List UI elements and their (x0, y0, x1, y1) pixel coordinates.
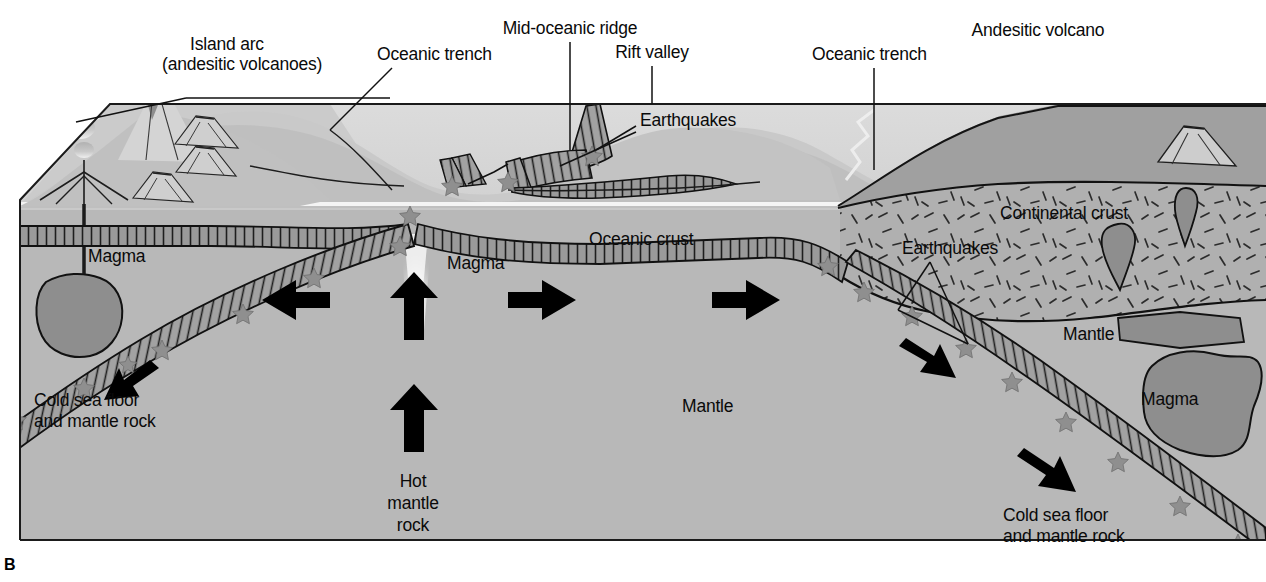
tectonics-cross-section-diagram (0, 0, 1266, 582)
label-cold-seafloor-left-2: and mantle rock (34, 411, 156, 431)
label-cold-seafloor-right-2: and mantle rock (1003, 526, 1125, 546)
label-continental-crust: Continental crust (1000, 203, 1128, 223)
label-island-arc: Island arc (190, 34, 264, 54)
label-mantle-center: Mantle (682, 396, 733, 416)
label-cold-seafloor-left-1: Cold sea floor (34, 390, 139, 410)
label-hot-mantle-3: rock (397, 515, 429, 535)
label-oceanic-crust: Oceanic crust (589, 229, 693, 249)
label-cold-seafloor-right-1: Cold sea floor (1003, 505, 1108, 525)
label-earthquakes-ridge: Earthquakes (640, 110, 736, 130)
label-oceanic-trench-left: Oceanic trench (377, 44, 492, 64)
label-oceanic-trench-right: Oceanic trench (812, 44, 927, 64)
magma-left-chamber (36, 274, 122, 357)
label-mid-oceanic-ridge: Mid-oceanic ridge (503, 18, 638, 38)
label-hot-mantle-2: mantle (387, 493, 438, 513)
label-magma-left: Magma (88, 246, 145, 266)
label-island-arc-subtitle: (andesitic volcanoes) (162, 54, 322, 74)
label-andesitic-volcano: Andesitic volcano (972, 20, 1105, 40)
label-mantle-right: Mantle (1063, 324, 1114, 344)
panel-letter: B (4, 556, 16, 574)
figure-panel: Island arc (andesitic volcanoes) Oceanic… (0, 0, 1266, 582)
label-magma-right: Magma (1141, 389, 1198, 409)
label-rift-valley: Rift valley (615, 42, 689, 62)
label-hot-mantle-1: Hot (400, 471, 427, 491)
label-earthquakes-continental: Earthquakes (902, 238, 998, 258)
label-magma-center: Magma (447, 253, 504, 273)
magma-lens-1 (1118, 312, 1244, 348)
